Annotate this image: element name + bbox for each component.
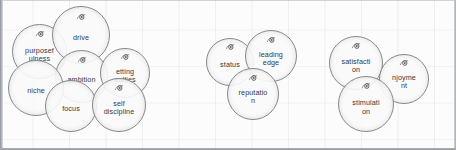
bubble[interactable]: reputatio n [227, 68, 279, 120]
bubble[interactable]: stimulati on [338, 76, 394, 132]
page-edge-left [0, 0, 3, 150]
bubble-marker-icon [226, 43, 235, 51]
bubble-label: self discipline [91, 100, 147, 117]
bubble-marker-icon [115, 84, 124, 92]
page-edge-top [0, 0, 456, 1]
bubble-marker-icon [352, 42, 361, 50]
bubble-marker-icon [400, 59, 409, 67]
bubble-label: stimulati on [337, 99, 395, 116]
bubble-label: reputatio n [226, 89, 280, 106]
bubble-marker-icon [249, 74, 258, 82]
bubble-marker-icon [362, 82, 371, 90]
bubble-label: drive [51, 34, 111, 42]
bubble-label: satisfacti on [328, 58, 384, 75]
bubble-label: focus [44, 105, 98, 113]
bubble-marker-icon [77, 56, 86, 64]
bubble[interactable]: focus [45, 80, 97, 132]
page-edge-bottom [0, 148, 456, 150]
bubble[interactable]: self discipline [92, 78, 146, 132]
bubble-marker-icon [267, 36, 276, 44]
bubble-label: leading edge [244, 51, 298, 68]
bubble-marker-icon [35, 30, 44, 38]
bubble-marker-icon [77, 13, 86, 21]
diagram-canvas: purposef ulness drive ambition [0, 0, 456, 150]
bubble-marker-icon [121, 53, 130, 61]
